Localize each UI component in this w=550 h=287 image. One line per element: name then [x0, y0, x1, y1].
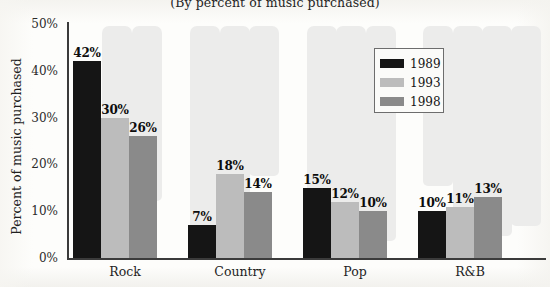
bar-value-label: 14%: [235, 177, 281, 191]
bar-value-label: 30%: [92, 103, 138, 117]
bar: [331, 202, 359, 258]
category-label: Country: [185, 264, 295, 279]
bar: [73, 61, 101, 258]
bar: [129, 136, 157, 258]
x-axis-line: [67, 258, 546, 260]
chart-subtitle: (By percent of music purchased): [0, 0, 550, 10]
category-label: Pop: [300, 264, 410, 279]
background-band: [249, 26, 279, 176]
y-tick-label: 0%: [0, 251, 58, 265]
bar: [474, 197, 502, 258]
bar: [418, 211, 446, 258]
legend: 198919931998: [374, 48, 444, 113]
bar-value-label: 13%: [465, 182, 511, 196]
bar-value-label: 42%: [64, 46, 110, 60]
legend-swatch: [380, 78, 404, 87]
bar: [244, 192, 272, 258]
bar-value-label: 18%: [207, 159, 253, 173]
bar: [188, 225, 216, 258]
y-axis-title: Percent of music purchased: [9, 47, 24, 247]
category-label: Rock: [70, 264, 180, 279]
bar: [359, 211, 387, 258]
legend-label: 1993: [410, 77, 441, 89]
legend-item: 1993: [375, 73, 443, 92]
background-band: [511, 26, 541, 226]
legend-label: 1989: [410, 58, 441, 70]
legend-swatch: [380, 97, 404, 106]
bar: [446, 207, 474, 258]
bar-value-label: 26%: [120, 121, 166, 135]
legend-item: 1998: [375, 92, 443, 111]
category-label: R&B: [415, 264, 525, 279]
bar-value-label: 10%: [350, 196, 396, 210]
legend-swatch: [380, 59, 404, 68]
bar: [101, 118, 129, 258]
legend-item: 1989: [375, 54, 443, 73]
legend-label: 1998: [410, 96, 441, 108]
bar-value-label: 15%: [294, 173, 340, 187]
bar-chart: (By percent of music purchased) 0%10%20%…: [0, 0, 550, 287]
y-tick-label: 50%: [0, 17, 58, 31]
